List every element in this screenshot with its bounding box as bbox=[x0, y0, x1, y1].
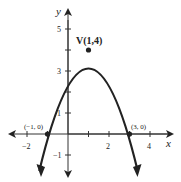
tick-label-x-neg2: −2 bbox=[22, 142, 31, 151]
tick-label-x-4: 4 bbox=[147, 142, 151, 151]
vertex-point bbox=[86, 47, 91, 52]
parabola-graph: y x −2 2 4 5 3 1 −1 V(1,4) (−1, 0) (3, 0… bbox=[0, 0, 181, 182]
left-intercept-label: (−1, 0) bbox=[24, 123, 44, 131]
tick-label-y-neg1: −1 bbox=[53, 151, 62, 160]
tick-label-x-2: 2 bbox=[106, 142, 110, 151]
vertex-label: V(1,4) bbox=[76, 35, 102, 47]
tick-label-y-1: 1 bbox=[57, 109, 61, 118]
curve-arrow-right-head bbox=[133, 164, 142, 177]
right-intercept-point bbox=[127, 131, 132, 136]
curve-arrow-left-head bbox=[37, 164, 46, 177]
y-axis-label: y bbox=[55, 5, 61, 17]
right-intercept-label: (3, 0) bbox=[131, 123, 147, 131]
left-intercept-point bbox=[45, 131, 50, 136]
tick-label-y-5: 5 bbox=[57, 25, 61, 34]
tick-label-y-3: 3 bbox=[57, 67, 61, 76]
x-axis-label: x bbox=[165, 137, 171, 149]
